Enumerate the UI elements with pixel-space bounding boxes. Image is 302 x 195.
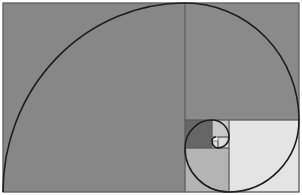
square-3 bbox=[229, 120, 299, 192]
golden-spiral-diagram bbox=[0, 0, 302, 195]
square-2 bbox=[185, 3, 299, 120]
diagram-canvas bbox=[0, 0, 302, 195]
square-1 bbox=[3, 3, 185, 192]
fibonacci-squares bbox=[3, 3, 299, 192]
